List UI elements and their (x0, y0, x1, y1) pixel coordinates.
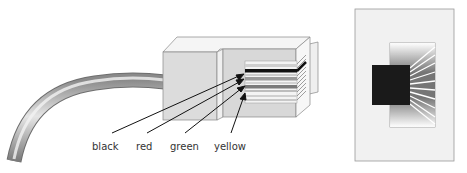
label-yellow: yellow (214, 141, 246, 152)
wire-green (245, 85, 297, 89)
wire-yellow (245, 90, 297, 92)
rj11-diagram: black red green yellow (0, 0, 467, 173)
connector-end-view (355, 9, 454, 161)
label-black: black (92, 141, 119, 152)
wire-black (245, 69, 297, 73)
wire-red (245, 77, 297, 81)
label-green: green (170, 141, 199, 152)
label-red: red (136, 141, 152, 152)
